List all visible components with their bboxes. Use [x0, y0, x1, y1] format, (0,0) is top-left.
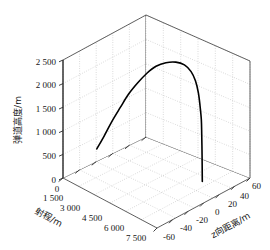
z-tick-label-40: 40: [240, 191, 250, 201]
x-tick-label-4500: 4 500: [82, 213, 103, 223]
y-tick-label-500: 500: [43, 151, 57, 161]
z-tick-label-neg40: -40: [180, 223, 192, 233]
x-tick-label-3000: 3 000: [60, 203, 81, 213]
z-tick-label-0: 0: [215, 207, 220, 217]
x-tick-label-6000: 6 000: [104, 223, 125, 233]
y-tick-label-1500: 1 500: [36, 104, 57, 114]
y-axis-ticks: [59, 60, 63, 180]
z-tick-label-60: 60: [252, 181, 262, 191]
trajectory-3d-chart: 0 500 1 000 1 500 2 000 2 500 弹道高度/m 0 1…: [0, 0, 270, 250]
x-tick-label-1500: 1 500: [43, 193, 64, 203]
y-tick-label-2000: 2 000: [36, 80, 57, 90]
z-tick-label-20: 20: [228, 199, 238, 209]
y-axis: 0 500 1 000 1 500 2 000 2 500 弹道高度/m: [12, 57, 63, 185]
y-tick-label-2500: 2 500: [36, 57, 57, 67]
figure-root: 0 500 1 000 1 500 2 000 2 500 弹道高度/m 0 1…: [0, 0, 270, 250]
x-tick-label-7500: 7 500: [126, 233, 147, 243]
y-axis-title: 弹道高度/m: [12, 96, 23, 144]
z-tick-label-neg20: -20: [196, 215, 208, 225]
z-tick-label-neg60: -60: [163, 232, 175, 242]
y-tick-label-1000: 1 000: [36, 127, 57, 137]
